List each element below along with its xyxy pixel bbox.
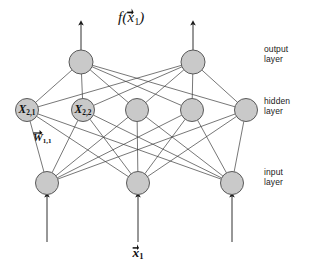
subscript: 2,1: [26, 108, 35, 117]
edge: [38, 65, 181, 106]
edge: [52, 120, 78, 172]
subscript: 1: [134, 16, 139, 27]
edge: [56, 117, 128, 176]
edge: [234, 121, 244, 171]
neuron-node: [181, 50, 205, 74]
edge: [145, 119, 185, 174]
neuron-node: [181, 99, 204, 122]
neuron-node: [36, 172, 59, 195]
vector-accent-group: x: [132, 245, 139, 261]
layer-label-hidden: hidden layer: [264, 96, 290, 116]
layer-label-output: output layer: [264, 44, 288, 64]
neural-network-figure: f(x1) output layer hidden layer input la…: [0, 0, 314, 273]
weight-label-w11: W1,1: [33, 131, 52, 145]
neuron-node: [127, 172, 150, 195]
input-vector-label: x1: [132, 245, 143, 261]
layer-label-input-line1: input: [264, 167, 283, 177]
layer-label-input: input layer: [264, 167, 283, 187]
edge: [36, 70, 72, 102]
function-title: f(x1): [118, 9, 144, 27]
edge: [198, 120, 227, 173]
subscript: 1: [139, 251, 143, 261]
layer-label-hidden-line1: hidden: [264, 96, 290, 106]
edge: [58, 114, 235, 179]
nodes-group: [16, 50, 258, 195]
edge: [93, 65, 235, 106]
edge: [93, 115, 221, 178]
subscript: 1,1: [43, 137, 52, 145]
node-label-x21: X2,1: [19, 103, 36, 117]
layer-label-hidden-line2: layer: [264, 106, 290, 116]
edge: [82, 74, 83, 99]
vector-arrow-icon: [33, 129, 43, 135]
vector-accent-group: x: [128, 9, 135, 26]
edge: [90, 119, 131, 174]
edges-group: [30, 65, 244, 179]
edge: [30, 121, 44, 172]
edge: [90, 70, 128, 103]
neuron-node: [69, 50, 93, 74]
neuron-node: [221, 172, 244, 195]
subscript: 2,2: [82, 108, 91, 117]
node-label-x22: X2,2: [75, 103, 92, 117]
neuron-node: [235, 99, 258, 122]
layer-label-output-line2: layer: [264, 54, 288, 64]
layer-label-input-line2: layer: [264, 177, 283, 187]
vector-accent-group: W: [33, 131, 43, 143]
layer-label-output-line1: output: [264, 44, 288, 54]
edge: [137, 122, 138, 172]
edge: [202, 70, 238, 102]
neuron-node: [126, 99, 149, 122]
